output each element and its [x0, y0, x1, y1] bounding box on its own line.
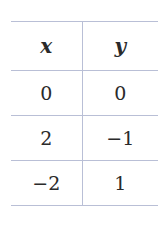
header-y: y	[82, 22, 158, 71]
header-x: x	[11, 22, 82, 71]
cell-x: 2	[11, 116, 82, 161]
cell-y: −1	[82, 116, 158, 161]
xy-value-table: x y 0 0 2 −1 −2 1	[11, 21, 158, 206]
table-row: −2 1	[11, 161, 158, 206]
cell-x: 0	[11, 71, 82, 116]
header-row: x y	[11, 22, 158, 71]
cell-x: −2	[11, 161, 82, 206]
cell-y: 1	[82, 161, 158, 206]
cell-y: 0	[82, 71, 158, 116]
table-row: 2 −1	[11, 116, 158, 161]
table-row: 0 0	[11, 71, 158, 116]
